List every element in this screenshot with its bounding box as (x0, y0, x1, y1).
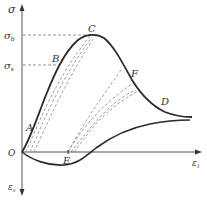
point-d-label: D (160, 96, 169, 107)
point-e-label: E (62, 155, 71, 166)
stress-strain-curve (22, 35, 192, 152)
point-b-label: B (51, 53, 59, 64)
strain-axis-arrow-icon (195, 150, 202, 155)
origin-label: O (8, 148, 16, 158)
sigma-s-label: σs (4, 60, 14, 72)
unloading-dashed-loops (68, 70, 140, 152)
stress-strain-diagram: σ σb σs O εv ε1 A B C D E F (0, 0, 207, 201)
sigma-b-label: σb (4, 30, 15, 42)
sigma-axis-label: σ (8, 3, 16, 16)
volumetric-strain-curve (22, 120, 190, 165)
strain-axis-label: ε1 (192, 158, 200, 169)
point-f-label: F (130, 68, 139, 79)
point-c-label: C (88, 23, 96, 34)
axes (20, 4, 203, 196)
sigma-axis-arrow-icon (20, 4, 25, 11)
loading-dashed-loops (26, 36, 93, 152)
volumetric-axis-label: εv (8, 182, 16, 193)
point-a-label: A (25, 122, 33, 133)
volumetric-axis-arrow-icon (20, 189, 25, 196)
